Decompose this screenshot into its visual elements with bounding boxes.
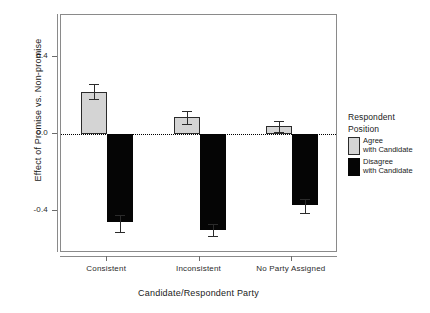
errorbar-agree-2 — [279, 121, 280, 133]
legend-title-line2: Position — [348, 124, 430, 134]
legend-item-disagree: Disagree with Candidate — [348, 157, 430, 177]
x-tick-2 — [291, 256, 292, 261]
legend: Respondent Position Agree with Candidate… — [348, 112, 430, 177]
legend-label-agree-line2: with Candidate — [363, 145, 413, 154]
legend-label-agree-line1: Agree — [363, 136, 383, 145]
errorbar-cap-disagree-2-0 — [300, 199, 310, 200]
errorbar-cap-agree-1-1 — [182, 124, 192, 125]
legend-label-disagree: Disagree with Candidate — [363, 157, 413, 175]
y-axis-title: Effect of Promise vs. Non-promise — [33, 10, 43, 210]
y-axis-line — [57, 14, 58, 252]
plot-area — [61, 15, 336, 251]
legend-swatch-agree — [348, 137, 360, 155]
errorbar-cap-agree-0-1 — [89, 99, 99, 100]
errorbar-cap-agree-0-0 — [89, 84, 99, 85]
bar-disagree-1 — [200, 134, 226, 230]
errorbar-cap-agree-2-1 — [274, 132, 284, 133]
x-tick-label-no-party-assigned: No Party Assigned — [256, 264, 325, 273]
legend-label-agree: Agree with Candidate — [363, 136, 413, 154]
errorbar-cap-disagree-1-0 — [208, 224, 218, 225]
chart-figure: 0.4 0.0 -0.4 Effect of Promise vs. Non-p… — [0, 0, 430, 313]
legend-title-line1: Respondent — [348, 112, 430, 122]
errorbar-cap-disagree-2-1 — [300, 213, 310, 214]
errorbar-cap-disagree-0-1 — [115, 232, 125, 233]
errorbar-agree-1 — [187, 111, 188, 124]
errorbar-disagree-2 — [305, 199, 306, 212]
x-tick-1 — [199, 256, 200, 261]
x-tick-0 — [106, 256, 107, 261]
legend-swatch-disagree — [348, 158, 360, 176]
y-tick-1 — [52, 133, 57, 134]
legend-label-disagree-line2: with Candidate — [363, 166, 413, 175]
errorbar-disagree-1 — [213, 224, 214, 236]
legend-label-disagree-line1: Disagree — [363, 157, 393, 166]
bar-disagree-2 — [292, 134, 318, 205]
x-tick-label-inconsistent: Inconsistent — [176, 264, 221, 273]
x-tick-label-consistent: Consistent — [86, 264, 126, 273]
y-tick-2 — [52, 210, 57, 211]
legend-item-agree: Agree with Candidate — [348, 136, 430, 156]
bar-disagree-0 — [107, 134, 133, 222]
errorbar-cap-agree-2-0 — [274, 121, 284, 122]
y-tick-0 — [52, 56, 57, 57]
errorbar-disagree-0 — [120, 215, 121, 232]
errorbar-agree-0 — [94, 84, 95, 99]
x-axis-title: Candidate/Respondent Party — [60, 288, 337, 298]
errorbar-cap-disagree-1-1 — [208, 236, 218, 237]
errorbar-cap-agree-1-0 — [182, 111, 192, 112]
plot-panel — [60, 14, 337, 252]
errorbar-cap-disagree-0-0 — [115, 215, 125, 216]
